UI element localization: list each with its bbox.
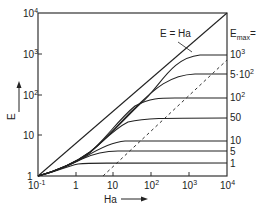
curve-emax-10 [38,141,227,176]
y-tick-10: 10 [23,130,35,141]
curve-emax-500 [38,74,227,176]
x-tick-10: 10 [107,180,119,191]
leader-line [178,42,192,52]
y-axis-label: E [6,113,17,120]
label-curve-1: 1 [230,158,236,169]
label-e-equals-ha: E = Ha [160,28,191,39]
x-tick-1: 1 [73,180,79,191]
x-tick-0.1: 10-1 [28,179,45,191]
y-tick-10000: 104 [23,7,38,19]
y-tick-1000: 103 [23,48,38,60]
label-emax: Emax= [230,28,256,41]
y-axis-arrow-icon [17,81,22,88]
x-axis-arrow-icon [141,197,148,202]
label-curve-100: 102 [230,91,245,103]
label-curve-500: 5·102 [230,68,254,80]
x-axis-label: Ha [104,194,117,205]
x-tick-10000: 104 [220,179,235,191]
label-curve-1000: 103 [230,48,245,60]
curve-emax-1 [38,163,227,176]
emax-curves [38,55,227,176]
label-curve-10: 10 [230,135,242,146]
curve-emax-1000 [38,55,227,176]
chart: E = Ha Emax= 103 5·102 102 50 10 5 1 1 1… [0,0,262,207]
label-curve-50: 50 [230,112,242,123]
x-tick-1000: 103 [182,179,197,191]
label-curve-5: 5 [230,146,236,157]
x-tick-100: 102 [144,179,159,191]
x-ticks [76,172,189,176]
y-tick-100: 102 [23,89,38,101]
